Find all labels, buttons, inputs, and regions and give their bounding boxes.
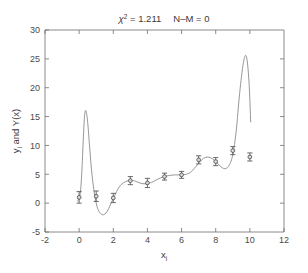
data-marker: [197, 158, 201, 162]
data-marker: [163, 175, 167, 179]
data-marker: [231, 149, 235, 153]
data-marker: [77, 195, 81, 199]
y-tick-label: 15: [30, 112, 40, 122]
data-marker: [146, 181, 150, 185]
dof-text: N–M = 0: [173, 13, 209, 24]
data-marker: [180, 173, 184, 177]
figure-canvas: -2 0 2 4 6 8 10 12 -5 0 5 10 15 20 25 30…: [0, 0, 308, 273]
data-marker: [128, 179, 132, 183]
y-tick-label: 5: [35, 170, 40, 180]
y-axis-title: yi and Y(x): [10, 109, 23, 154]
x-axis-title: xi: [161, 249, 167, 262]
data-marker: [111, 196, 115, 200]
chart-plot: -2 0 2 4 6 8 10 12 -5 0 5 10 15 20 25 30…: [0, 0, 308, 273]
x-tick-label: 12: [279, 235, 289, 245]
chart-title: χ2 = 1.211N–M = 0: [118, 13, 210, 25]
data-marker: [248, 155, 252, 159]
y-tick-label: 30: [30, 25, 40, 35]
y-tick-label: 25: [30, 54, 40, 64]
x-tick-label: 6: [179, 235, 184, 245]
y-tick-label: 10: [30, 141, 40, 151]
svg-text:χ2 = 1.211N–M = 0: χ2 = 1.211N–M = 0: [118, 13, 210, 25]
svg-text:yi and Y(x): yi and Y(x): [10, 109, 23, 154]
x-tick-label: -2: [41, 235, 49, 245]
x-tick-labels: -2 0 2 4 6 8 10 12: [41, 235, 289, 245]
x-tick-label: 2: [111, 235, 116, 245]
x-tick-label: 4: [145, 235, 150, 245]
chi-value: = 1.211: [127, 13, 161, 24]
y-tick-labels: -5 0 5 10 15 20 25 30: [30, 25, 40, 237]
x-tick-label: 10: [245, 235, 255, 245]
svg-text:xi: xi: [161, 249, 167, 262]
y-tick-label: 0: [35, 198, 40, 208]
data-marker: [94, 194, 98, 198]
y-tick-label: -5: [32, 227, 40, 237]
x-tick-label: 8: [213, 235, 218, 245]
data-marker: [214, 160, 218, 164]
y-tick-label: 20: [30, 83, 40, 93]
x-tick-label: 0: [77, 235, 82, 245]
plot-background: [45, 30, 284, 232]
